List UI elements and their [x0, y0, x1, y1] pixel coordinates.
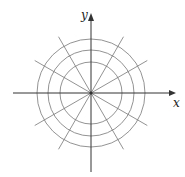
radial-spoke [91, 93, 124, 149]
polar-grid-diagram [0, 0, 185, 177]
y-axis-label: y [81, 8, 88, 22]
radial-spoke [91, 61, 147, 94]
radial-spoke [59, 93, 92, 149]
y-axis-arrow-icon [88, 13, 94, 21]
radial-spoke [91, 93, 147, 126]
origin-point [90, 92, 93, 95]
radial-spoke [59, 37, 92, 93]
radial-spoke [35, 93, 91, 126]
x-axis-label: x [173, 96, 180, 110]
radial-spoke [91, 37, 124, 93]
radial-spoke [35, 61, 91, 94]
